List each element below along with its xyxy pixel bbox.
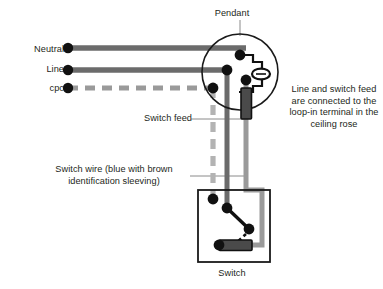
- terminal-switch-return: [214, 240, 225, 251]
- label-line: Line: [8, 64, 64, 76]
- terminal-rose-loop-in: [222, 65, 233, 76]
- terminal-line-source: [63, 65, 73, 75]
- terminal-rose-switch-wire: [241, 75, 252, 86]
- terminal-switch-feed: [222, 203, 233, 214]
- sleeve-marker-rose: [241, 88, 252, 119]
- terminal-switch-common: [244, 224, 255, 235]
- label-loop-in-note: Line and switch feed are connected to th…: [286, 84, 382, 130]
- terminal-cpc-source: [63, 83, 73, 93]
- label-cpc: cpc: [8, 83, 64, 95]
- label-switch-wire-note: Switch wire (blue with brown identificat…: [38, 164, 190, 187]
- terminal-rose-neutral: [235, 50, 246, 61]
- label-neutral: Neutral: [8, 44, 64, 56]
- wiring-diagram: Neutral Line cpc Pendant Switch Switch f…: [0, 0, 383, 289]
- label-switch-feed: Switch feed: [128, 113, 192, 125]
- terminal-neutral-source: [63, 43, 73, 53]
- label-switch: Switch: [196, 268, 268, 280]
- label-pendant: Pendant: [196, 8, 268, 20]
- terminal-switch-cpc: [208, 194, 219, 205]
- terminal-rose-cpc: [208, 83, 219, 94]
